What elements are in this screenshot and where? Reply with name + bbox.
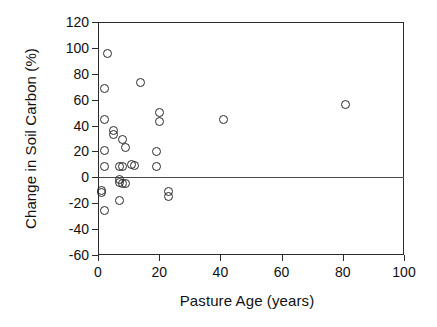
y-tick-label: 120 (66, 14, 89, 30)
x-tick-mark (404, 255, 405, 261)
data-point-marker (219, 115, 228, 124)
y-axis-title: Change in Soil Carbon (%) (22, 9, 39, 269)
y-tick-mark (92, 22, 98, 23)
plot-area: 120100806040200-20-40-60 020406080100 (98, 22, 404, 255)
x-tick-label: 80 (335, 264, 351, 280)
y-tick-mark (92, 48, 98, 49)
y-tick-mark (92, 74, 98, 75)
y-tick-label: 80 (73, 66, 89, 82)
x-tick-label: 60 (274, 264, 290, 280)
x-tick-label: 20 (151, 264, 167, 280)
y-tick-mark (92, 203, 98, 204)
y-tick-mark (92, 151, 98, 152)
data-point-marker (155, 108, 164, 117)
x-tick-label: 100 (392, 264, 415, 280)
y-tick-mark (92, 229, 98, 230)
data-point-marker (155, 117, 164, 126)
y-tick-mark (92, 100, 98, 101)
y-tick-mark (92, 126, 98, 127)
y-tick-label: 60 (73, 92, 89, 108)
data-point-marker (109, 130, 118, 139)
x-axis-title: Pasture Age (years) (90, 292, 404, 309)
x-tick-mark (343, 255, 344, 261)
data-point-marker (100, 146, 109, 155)
zero-reference-line (98, 177, 404, 178)
x-tick-mark (98, 255, 99, 261)
data-point-marker (97, 188, 106, 197)
y-tick-label: -20 (69, 195, 89, 211)
data-point-marker (103, 49, 112, 58)
data-point-marker (100, 115, 109, 124)
data-point-marker (115, 196, 124, 205)
data-point-marker (100, 84, 109, 93)
scatter-chart-figure: Change in Soil Carbon (%) 12010080604020… (0, 0, 437, 327)
y-tick-label: 100 (66, 40, 89, 56)
y-tick-label: 40 (73, 118, 89, 134)
data-point-marker (121, 143, 130, 152)
y-tick-mark (92, 177, 98, 178)
x-tick-label: 0 (94, 264, 102, 280)
x-tick-mark (282, 255, 283, 261)
data-point-marker (152, 147, 161, 156)
x-tick-mark (220, 255, 221, 261)
x-tick-mark (159, 255, 160, 261)
y-tick-label: -60 (69, 247, 89, 263)
y-tick-label: 20 (73, 143, 89, 159)
plot-frame (98, 22, 404, 255)
y-tick-label: 0 (81, 169, 89, 185)
x-tick-label: 40 (213, 264, 229, 280)
y-tick-label: -40 (69, 221, 89, 237)
